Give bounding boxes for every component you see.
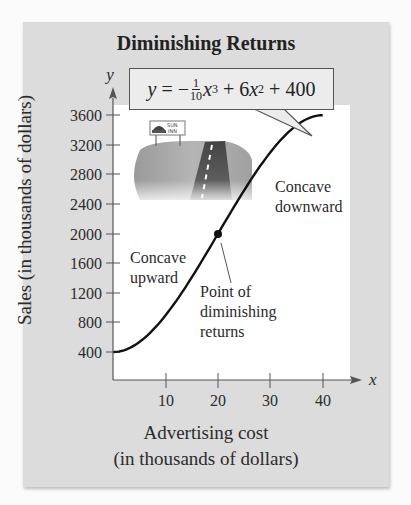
point-label-1: Point of (200, 283, 252, 300)
svg-text:2800: 2800 (70, 166, 102, 183)
svg-text:800: 800 (78, 314, 102, 331)
svg-text:1600: 1600 (70, 255, 102, 272)
svg-text:1200: 1200 (70, 285, 102, 302)
point-label-2: diminishing (200, 303, 276, 321)
svg-text:2400: 2400 (70, 196, 102, 213)
eq-frac-den: 10 (190, 90, 202, 102)
svg-text:30: 30 (262, 392, 278, 409)
sign-text-inn: INN (168, 128, 177, 134)
point-label-3: returns (200, 323, 244, 340)
eq-plus-400: + 400 (269, 78, 315, 101)
equation-box: y = −110x3 + 6x2 + 400 (129, 68, 334, 110)
svg-text:3200: 3200 (70, 137, 102, 154)
y-axis-letter: y (104, 65, 114, 84)
eq-fraction: 110 (190, 77, 202, 102)
inflection-point[interactable] (214, 230, 222, 238)
y-axis-label: Sales (in thousands of dollars) (14, 95, 36, 325)
eq-x2: x (249, 78, 258, 101)
y-axis-arrow-icon (109, 87, 117, 99)
svg-text:3600: 3600 (70, 107, 102, 124)
svg-text:40: 40 (315, 392, 331, 409)
x-axis-letter: x (368, 370, 377, 389)
concave-downward-label-2: downward (275, 198, 343, 215)
eq-lhs: y (148, 78, 157, 101)
svg-text:20: 20 (210, 392, 226, 409)
concave-upward-label-2: upward (130, 269, 178, 287)
eq-equals: = (161, 78, 172, 101)
svg-text:2000: 2000 (70, 226, 102, 243)
svg-text:10: 10 (158, 392, 174, 409)
eq-plus-6: + 6 (223, 78, 249, 101)
x-axis-label-line1: Advertising cost (23, 420, 389, 446)
eq-exp2: 2 (258, 82, 264, 97)
eq-minus: − (178, 78, 189, 101)
x-axis-label-line2: (in thousands of dollars) (23, 446, 389, 472)
svg-text:400: 400 (78, 344, 102, 361)
concave-downward-label-1: Concave (275, 178, 331, 195)
eq-frac-num: 1 (192, 77, 200, 90)
concave-upward-label-1: Concave (130, 249, 186, 266)
eq-exp3: 3 (212, 82, 218, 97)
eq-x1: x (203, 78, 212, 101)
